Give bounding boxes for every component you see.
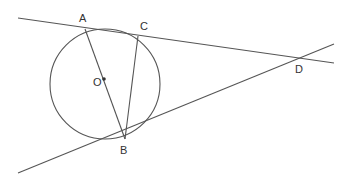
tangent-line-bd bbox=[18, 44, 334, 173]
label-a: A bbox=[79, 12, 87, 24]
diameter-ab bbox=[85, 29, 125, 139]
geometry-diagram: A C O B D bbox=[0, 0, 347, 187]
label-o: O bbox=[93, 76, 102, 88]
center-point-o bbox=[102, 77, 106, 81]
label-d: D bbox=[295, 63, 303, 75]
label-b: B bbox=[120, 144, 127, 156]
secant-line-acd bbox=[18, 18, 334, 63]
label-c: C bbox=[140, 20, 148, 32]
chord-cb bbox=[125, 36, 138, 139]
